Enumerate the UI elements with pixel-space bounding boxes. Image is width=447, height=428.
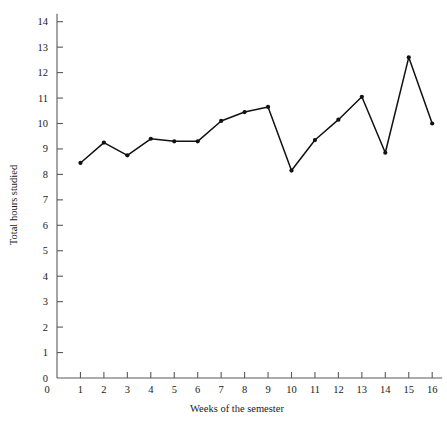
y-tick-label: 10 xyxy=(38,118,49,129)
chart-canvas: 01234567891011121314 0123456789101112131… xyxy=(0,0,447,428)
data-point xyxy=(430,121,434,125)
data-point xyxy=(125,153,129,157)
data-point xyxy=(313,138,317,142)
x-tick-label: 2 xyxy=(101,384,106,395)
x-tick-label: 15 xyxy=(404,384,415,395)
data-point xyxy=(289,168,293,172)
x-axis: 012345678910111213141516 xyxy=(44,372,442,395)
data-series-group xyxy=(78,55,434,172)
data-point xyxy=(102,140,106,144)
x-tick-label: 1 xyxy=(78,384,83,395)
y-tick-label: 12 xyxy=(38,67,49,78)
y-tick-label: 1 xyxy=(43,347,48,358)
y-tick-label: 3 xyxy=(43,296,48,307)
y-tick-label: 2 xyxy=(43,322,48,333)
y-tick-label: 14 xyxy=(38,16,49,27)
y-tick-label: 9 xyxy=(43,143,48,154)
data-point xyxy=(196,139,200,143)
x-tick-label: 5 xyxy=(172,384,177,395)
data-point xyxy=(172,139,176,143)
y-tick-group: 01234567891011121314 xyxy=(38,16,64,383)
x-tick-label: 12 xyxy=(333,384,344,395)
y-tick-label: 8 xyxy=(43,169,48,180)
x-tick-label: 16 xyxy=(427,384,438,395)
x-tick-label: 8 xyxy=(242,384,247,395)
x-tick-label: 7 xyxy=(219,384,224,395)
y-tick-label: 4 xyxy=(43,271,49,282)
x-tick-label: 10 xyxy=(286,384,297,395)
x-tick-label: 11 xyxy=(310,384,320,395)
x-tick-label: 9 xyxy=(265,384,270,395)
data-point xyxy=(360,95,364,99)
x-tick-label: 0 xyxy=(44,384,49,395)
x-axis-title: Weeks of the semester xyxy=(190,403,284,414)
data-point xyxy=(383,151,387,155)
data-point xyxy=(243,110,247,114)
line-chart: 01234567891011121314 0123456789101112131… xyxy=(0,0,447,428)
data-point xyxy=(219,119,223,123)
x-tick-label: 14 xyxy=(380,384,391,395)
x-tick-label: 3 xyxy=(125,384,130,395)
series-marker-group xyxy=(78,55,434,172)
data-point xyxy=(149,137,153,141)
y-tick-label: 13 xyxy=(38,42,49,53)
x-tick-label: 13 xyxy=(357,384,368,395)
data-point xyxy=(336,118,340,122)
y-axis: 01234567891011121314 xyxy=(38,14,64,384)
y-tick-label: 7 xyxy=(43,194,48,205)
x-tick-group: 012345678910111213141516 xyxy=(44,372,437,395)
series-line-total-hours-studied xyxy=(80,57,432,170)
data-point xyxy=(78,161,82,165)
y-tick-label: 0 xyxy=(43,373,48,384)
x-tick-label: 4 xyxy=(148,384,154,395)
y-tick-label: 11 xyxy=(38,93,48,104)
y-axis-title: Total hours studied xyxy=(8,164,19,245)
data-point xyxy=(266,105,270,109)
y-tick-label: 6 xyxy=(43,220,48,231)
y-tick-label: 5 xyxy=(43,245,48,256)
data-point xyxy=(407,55,411,59)
x-tick-label: 6 xyxy=(195,384,200,395)
